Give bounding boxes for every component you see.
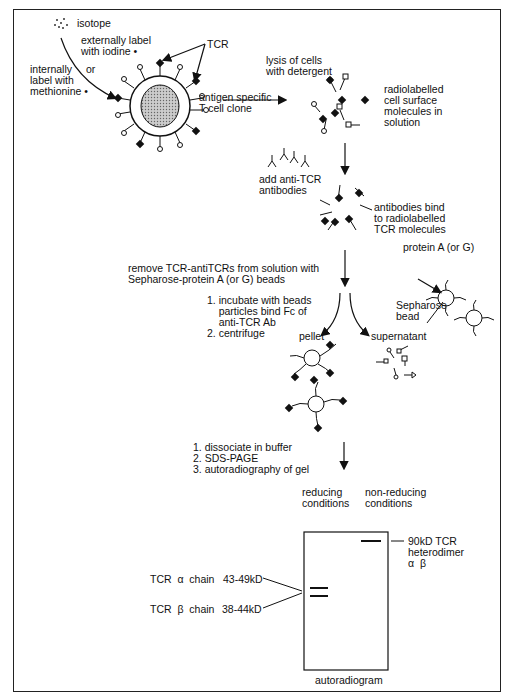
sepharose-label: Sepharose bead [396,300,447,322]
isotope-label: isotope [77,18,111,29]
supernatant-molecules-icon [376,346,416,379]
internal-label: internally label with methionine • [30,64,88,97]
incubate-steps: 1. incubate with beads particles bind Fc… [207,295,312,339]
nonreducing-label: non-reducing conditions [365,487,426,509]
lysis-label: lysis of cells with detergent [266,55,332,77]
supernatant-label: supernatant [371,331,426,342]
tcr-label: TCR [207,39,229,50]
alpha-kd-label: 43-49kD [223,574,263,585]
protein-a-label: protein A (or G) [403,242,474,253]
autoradiogram-label: autoradiogram [315,675,383,686]
antibody-icon [268,148,309,167]
heterodimer-label: 90kD TCR heterodimer α β [408,536,464,569]
cell-label: antigen specific T cell clone [199,92,271,114]
solution-molecules-icon [312,74,361,134]
t-cell-icon [114,59,209,152]
pellet-label: pellet [299,331,324,342]
gel-steps: 1. dissociate in buffer 2. SDS-PAGE 3. a… [193,442,309,475]
add-antibody-label: add anti-TCR antibodies [259,174,321,196]
gel-box [304,532,388,670]
reducing-label: reducing conditions [302,487,349,509]
external-label: externally label with iodine • [81,35,151,57]
remove-label: remove TCR-antiTCRs from solution with S… [128,263,319,285]
or-label: or [86,64,95,75]
alpha-chain-label: TCR α chain [150,574,214,585]
isotope-icon [54,18,68,29]
pellet-beads-icon [290,344,340,426]
beta-chain-label: TCR β chain [150,604,214,615]
beta-kd-label: 38-44kD [222,604,262,615]
antibody-tcr-complex-icon [320,185,372,230]
solution-label: radiolabelled cell surface molecules in … [384,84,444,128]
bind-label: antibodies bind to radiolabelled TCR mol… [374,202,446,235]
